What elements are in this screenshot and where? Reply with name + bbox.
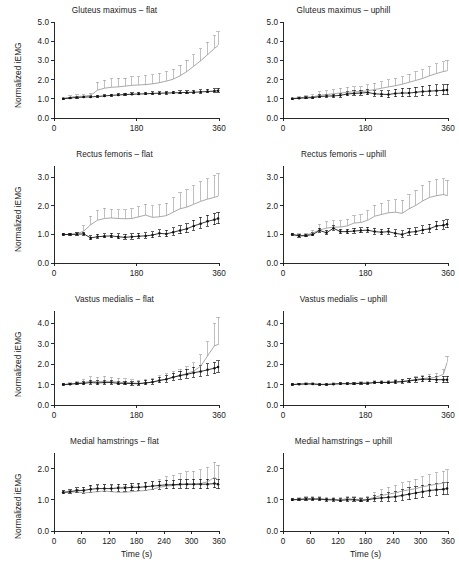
y-tick-label: 2.0 (38, 76, 50, 85)
y-tick-label: 2.0 (267, 360, 279, 369)
y-tick-label: 0.0 (38, 401, 50, 410)
data-point (103, 235, 106, 238)
data-point (103, 95, 106, 98)
series-control (62, 462, 220, 493)
y-tick-label: 1.0 (267, 496, 279, 505)
data-point (339, 94, 342, 97)
data-point (213, 367, 216, 370)
data-point (151, 234, 154, 237)
y-tick-label: 3.0 (38, 340, 50, 349)
data-point (158, 379, 161, 382)
data-point (76, 382, 79, 385)
data-point (89, 96, 92, 99)
y-tick-label: 0.0 (267, 259, 279, 268)
data-point (172, 231, 175, 234)
x-tick-label: 360 (212, 124, 226, 133)
data-point (422, 229, 425, 232)
data-point (172, 484, 175, 487)
data-point (332, 383, 335, 386)
data-point (83, 233, 86, 236)
data-point (428, 489, 431, 492)
data-point (415, 91, 418, 94)
x-tick-label: 0 (281, 269, 286, 278)
data-point (435, 378, 438, 381)
data-point (124, 382, 127, 385)
data-point (353, 499, 356, 502)
data-point (442, 488, 445, 491)
data-point (367, 91, 370, 94)
x-tick-label: 60 (77, 537, 87, 546)
data-point (435, 489, 438, 492)
x-tick-label: 360 (212, 269, 226, 278)
x-tick-label: 180 (130, 411, 144, 420)
x-tick-label: 360 (212, 411, 226, 420)
x-tick-label: 240 (157, 537, 171, 546)
data-point (89, 237, 92, 240)
data-point (415, 492, 418, 495)
data-point (435, 89, 438, 92)
y-tick-label: 0.0 (267, 527, 279, 536)
series-line-control (63, 196, 218, 234)
data-point (213, 218, 216, 221)
y-tick-label: 0.0 (38, 527, 50, 536)
data-point (325, 383, 328, 386)
plot-area: 0.01.02.03.00180360 (229, 150, 458, 295)
chart-panel: Gluteus maximus – uphill0.01.02.03.04.05… (229, 6, 458, 150)
x-tick-label: 0 (52, 269, 57, 278)
data-point (110, 235, 113, 238)
x-tick-label: 180 (130, 124, 144, 133)
data-point (367, 229, 370, 232)
y-tick-label: 3.0 (38, 56, 50, 65)
y-tick-label: 4.0 (38, 37, 50, 46)
data-point (298, 235, 301, 238)
data-point (117, 236, 120, 239)
y-tick-label: 0.0 (38, 259, 50, 268)
data-point (446, 89, 449, 92)
y-tick-label: 0.0 (267, 401, 279, 410)
data-point (62, 491, 65, 494)
data-point (89, 488, 92, 491)
data-point (332, 227, 335, 230)
data-point (179, 91, 182, 94)
data-point (96, 382, 99, 385)
figure-panel-grid: Gluteus maximus – flatNormalized iEMG0.0… (0, 0, 459, 577)
data-point (367, 499, 370, 502)
data-point (89, 381, 92, 384)
data-point (360, 499, 363, 502)
data-point (305, 234, 308, 237)
data-point (442, 89, 445, 92)
data-point (380, 93, 383, 96)
chart-panel: Rectus femoris – uphill0.01.02.03.001803… (229, 150, 458, 295)
data-point (96, 95, 99, 98)
chart-panel: Vastus medialis – uphill0.01.02.03.04.00… (229, 295, 458, 437)
data-point (408, 493, 411, 496)
data-point (124, 93, 127, 96)
y-tick-label: 3.0 (267, 56, 279, 65)
data-point (312, 233, 315, 236)
chart-panel: Rectus femoris – flatNormalized iEMG0.01… (0, 150, 229, 295)
data-point (387, 381, 390, 384)
data-point (165, 233, 168, 236)
data-point (213, 482, 216, 485)
data-point (401, 494, 404, 497)
x-tick-label: 180 (130, 269, 144, 278)
data-point (96, 236, 99, 239)
series-control (291, 179, 449, 236)
data-point (199, 222, 202, 225)
x-tick-label: 0 (52, 411, 57, 420)
data-point (179, 483, 182, 486)
y-tick-label: 3.0 (267, 340, 279, 349)
data-point (446, 223, 449, 226)
data-point (428, 378, 431, 381)
data-point (291, 383, 294, 386)
data-point (387, 230, 390, 233)
x-tick-label: 360 (441, 124, 455, 133)
data-point (110, 381, 113, 384)
data-point (193, 371, 196, 374)
data-point (305, 498, 308, 501)
x-tick-label: 240 (386, 537, 400, 546)
data-point (69, 383, 72, 386)
series-line-control (63, 477, 218, 493)
x-axis-title: Time (s) (54, 549, 219, 559)
data-point (318, 229, 321, 232)
